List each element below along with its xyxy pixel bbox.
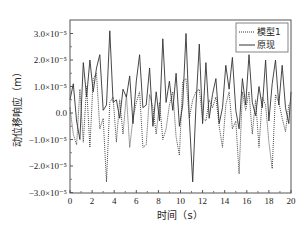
x-tick-label: 4	[112, 196, 117, 206]
x-axis-title: 时间（s）	[157, 209, 202, 221]
x-tick-label: 18	[264, 196, 274, 206]
x-tick-label: 16	[242, 196, 252, 206]
legend-label-original: 原现	[257, 40, 275, 50]
y-tick-label: 0.0	[56, 108, 68, 118]
x-tick-label: 6	[134, 196, 139, 206]
plot-lines	[70, 31, 291, 182]
x-tick-label: 8	[156, 196, 161, 206]
y-tick-label: −1.0×10⁻⁵	[29, 135, 67, 145]
y-axis: 3.0×10⁻⁵2.0×10⁻⁵1.0×10⁻⁵0.0−1.0×10⁻⁵−2.0…	[29, 29, 73, 198]
x-axis: 02468101214161820	[68, 190, 296, 206]
y-tick-label: −2.0×10⁻⁵	[29, 161, 67, 171]
series-original-line	[70, 31, 291, 182]
x-tick-label: 12	[198, 196, 207, 206]
legend: 模型1 原现	[236, 23, 288, 52]
y-tick-label: 2.0×10⁻⁵	[34, 55, 67, 65]
legend-label-model1: 模型1	[257, 27, 281, 37]
y-tick-label: 1.0×10⁻⁵	[34, 82, 67, 92]
x-tick-label: 0	[68, 196, 73, 206]
y-axis-title: 动位移响应（m）	[11, 67, 23, 147]
y-tick-label: 3.0×10⁻⁵	[34, 29, 67, 39]
series-model1-line	[70, 73, 291, 182]
line-chart: 02468101214161820 3.0×10⁻⁵2.0×10⁻⁵1.0×10…	[0, 0, 301, 231]
x-tick-label: 10	[176, 196, 186, 206]
y-tick-label: −3.0×10⁻⁵	[29, 188, 67, 198]
x-tick-label: 2	[90, 196, 95, 206]
x-tick-label: 14	[220, 196, 230, 206]
x-tick-label: 20	[287, 196, 297, 206]
